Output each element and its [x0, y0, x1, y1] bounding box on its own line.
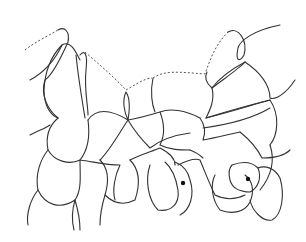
cell-wall [128, 120, 190, 148]
cell-wall [80, 53, 88, 115]
cell-wall [47, 118, 89, 162]
cell-wall [124, 92, 129, 120]
cell-wall [250, 167, 282, 220]
dashed-boundary-left [25, 30, 58, 50]
cell-wall [30, 125, 50, 135]
cell-wall [44, 45, 62, 118]
cell-wall [130, 148, 175, 165]
cell-wall [206, 62, 245, 88]
dashed-boundary-mid2 [153, 32, 228, 78]
dashed-boundary-mid [85, 52, 152, 90]
cell-wall [212, 175, 252, 212]
cell-wall [229, 162, 259, 192]
cell-wall [228, 25, 280, 60]
cell-diagram [0, 0, 306, 242]
cell-wall [37, 150, 80, 205]
cell-wall [27, 190, 38, 225]
cell-wall [76, 55, 85, 118]
cell-wall [212, 62, 245, 88]
cell-wall [148, 162, 179, 210]
cell-wall [80, 160, 120, 200]
cell-wall [73, 200, 75, 230]
cell-wall [152, 78, 155, 112]
cell-wall [206, 100, 277, 145]
cell-wall [200, 118, 240, 140]
cell-wall [160, 112, 190, 150]
cell-wall [178, 159, 245, 199]
cell-wall [30, 44, 80, 80]
cell-wall [75, 200, 80, 230]
cell-wall [203, 108, 270, 128]
cell-wall [100, 195, 105, 225]
nucleus-dot [181, 181, 185, 185]
cell-wall [128, 110, 200, 120]
cell-wall [240, 132, 290, 158]
cell-wall [88, 112, 128, 160]
cell-wall [43, 29, 68, 118]
cell-wall [245, 62, 295, 98]
cell-wall [190, 150, 203, 158]
nucleus-dot [246, 177, 250, 181]
